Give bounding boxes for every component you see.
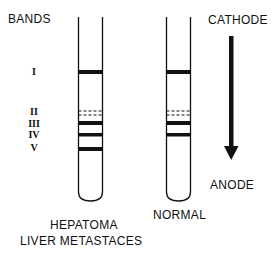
band-i bbox=[79, 70, 103, 74]
normal-tube bbox=[167, 17, 191, 201]
hepatoma-tube bbox=[79, 17, 103, 201]
band-iii bbox=[79, 121, 103, 125]
band-i bbox=[167, 70, 191, 74]
band-iii bbox=[167, 121, 191, 125]
arrow-down-icon bbox=[224, 36, 239, 160]
band-iv bbox=[79, 133, 103, 137]
band-v bbox=[79, 147, 103, 151]
electrophoresis-diagram bbox=[0, 0, 279, 255]
band-iv bbox=[167, 133, 191, 137]
